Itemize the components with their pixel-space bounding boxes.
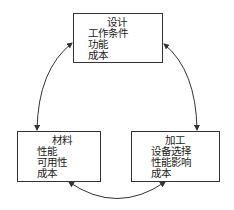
node-item: 成本 bbox=[151, 167, 171, 179]
node-item: 成本 bbox=[88, 49, 108, 61]
node-processing: 加工 设备选择 性能影响 成本 bbox=[131, 131, 220, 182]
node-material: 材料 性能 可用性 成本 bbox=[17, 131, 101, 182]
arrow-material-processing bbox=[69, 182, 165, 199]
arrow-design-processing bbox=[164, 44, 197, 130]
arrow-design-material bbox=[37, 43, 72, 130]
node-item: 成本 bbox=[37, 167, 57, 179]
node-design: 设计 工作条件 功能 成本 bbox=[73, 13, 163, 63]
